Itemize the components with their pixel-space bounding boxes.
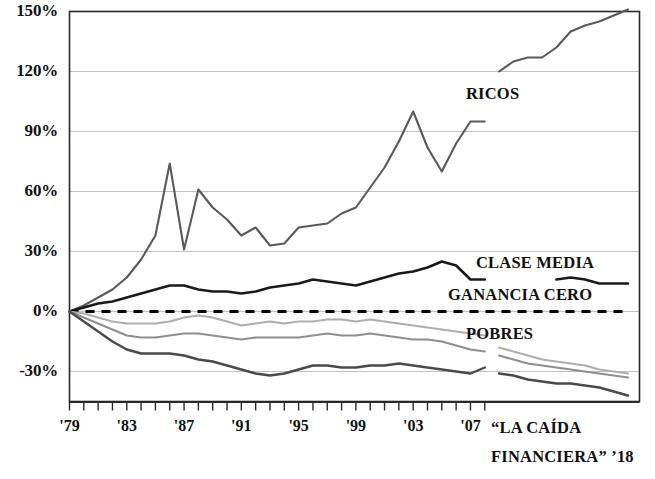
x-axis-tick-label: '03	[389, 417, 437, 435]
y-axis-tick-label: 30%	[0, 241, 58, 261]
x-axis-tick-label: '95	[275, 417, 323, 435]
y-axis-tick-label: 90%	[0, 121, 58, 141]
series-line-clase-media	[556, 278, 628, 284]
caption-line-2: FINANCIERA” ’18	[491, 447, 634, 467]
series-line-ricos	[499, 10, 628, 72]
x-axis-tick-label: '83	[103, 417, 151, 435]
ganancia-cero-label: GANANCIA CERO	[448, 285, 592, 305]
plot-border	[70, 12, 640, 402]
data-series	[70, 10, 628, 396]
y-axis-tick-label: 120%	[0, 61, 58, 81]
x-axis-tick-label: '99	[332, 417, 380, 435]
plot-frame	[70, 12, 640, 402]
clase-media-label: CLASE MEDIA	[476, 253, 594, 273]
y-axis-tick-label: 0%	[0, 301, 58, 321]
y-axis-tick-label: 60%	[0, 181, 58, 201]
x-axis-tick-label: '91	[217, 417, 265, 435]
ricos-label: RICOS	[466, 84, 519, 104]
series-line-grupo-medio-bajo	[70, 312, 485, 336]
x-axis-tick-label: '79	[46, 417, 94, 435]
series-line-pobres	[499, 374, 628, 396]
y-axis-tick-label: 150%	[0, 1, 58, 21]
chart-container: 150%120%90%60%30%0%-30% '79'83'87'91'95'…	[0, 0, 655, 479]
x-axis-tick-label: '87	[160, 417, 208, 435]
caption-line-1: “LA CAÍDA	[491, 418, 581, 438]
pobres-label: POBRES	[466, 324, 533, 344]
series-line-pobres	[70, 312, 485, 376]
y-axis-tick-label: -30%	[0, 361, 58, 381]
line-chart	[0, 0, 655, 479]
gridlines	[70, 72, 640, 372]
series-line-grupo-bajo	[499, 356, 628, 378]
series-line-grupo-bajo	[70, 312, 485, 352]
series-line-ricos	[70, 112, 485, 312]
series-line-clase-media	[70, 262, 485, 312]
x-axis-ticks	[70, 402, 640, 411]
x-axis-tick-label: '07	[446, 417, 494, 435]
